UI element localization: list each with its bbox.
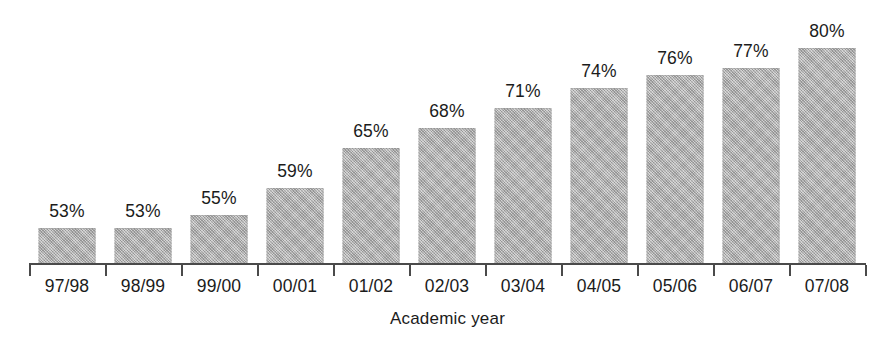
bar (495, 108, 552, 265)
bar-slot: 55% (181, 0, 257, 265)
bar (723, 68, 780, 265)
x-axis-tick-label: 04/05 (561, 278, 637, 296)
bar-slot: 65% (333, 0, 409, 265)
bar-value-label: 80% (809, 23, 845, 41)
bar (647, 75, 704, 265)
x-axis-tick-label: 01/02 (333, 278, 409, 296)
x-axis-tick (789, 265, 791, 276)
x-axis-tick (181, 265, 183, 276)
x-axis-tick (29, 265, 31, 276)
x-axis-tick (333, 265, 335, 276)
bar-value-label: 76% (657, 50, 693, 68)
bar-slot: 80% (789, 0, 865, 265)
bar-slot: 71% (485, 0, 561, 265)
bar-value-label: 77% (733, 43, 769, 61)
x-axis-tick (409, 265, 411, 276)
x-axis-title: Academic year (0, 310, 895, 327)
bar-slot: 68% (409, 0, 485, 265)
bar-value-label: 59% (277, 163, 313, 181)
bar-slot: 53% (29, 0, 105, 265)
bar-value-label: 65% (353, 123, 389, 141)
bar (267, 188, 324, 265)
bar-value-label: 68% (429, 103, 465, 121)
x-axis-tick (485, 265, 487, 276)
bar-slot: 77% (713, 0, 789, 265)
x-axis-tick-label: 02/03 (409, 278, 485, 296)
bar-slot: 76% (637, 0, 713, 265)
x-axis-tick (257, 265, 259, 276)
bar (39, 228, 96, 265)
x-axis-tick-label: 00/01 (257, 278, 333, 296)
bar-slot: 53% (105, 0, 181, 265)
x-axis-tick (105, 265, 107, 276)
x-axis-tick-label: 07/08 (789, 278, 865, 296)
x-axis-tick-label: 06/07 (713, 278, 789, 296)
bar-value-label: 53% (125, 203, 161, 221)
bar (799, 48, 856, 265)
x-axis-line (29, 263, 866, 265)
plot-area: 53%53%55%59%65%68%71%74%76%77%80% (29, 0, 866, 265)
bars-layer: 53%53%55%59%65%68%71%74%76%77%80% (29, 0, 866, 265)
bar-slot: 59% (257, 0, 333, 265)
x-axis-tick (637, 265, 639, 276)
bar-value-label: 53% (49, 203, 85, 221)
bar-slot: 74% (561, 0, 637, 265)
bar-value-label: 71% (505, 83, 541, 101)
x-axis-tick-label: 98/99 (105, 278, 181, 296)
x-axis-tick (561, 265, 563, 276)
x-axis-tick (713, 265, 715, 276)
bar-chart: 53%53%55%59%65%68%71%74%76%77%80% 97/989… (0, 0, 895, 347)
bar (343, 148, 400, 265)
bar (419, 128, 476, 265)
x-axis-tick (865, 265, 867, 276)
bar-value-label: 55% (201, 190, 237, 208)
bar (191, 215, 248, 265)
x-axis-tick-label: 97/98 (29, 278, 105, 296)
bar-value-label: 74% (581, 63, 617, 81)
x-axis-tick-label: 03/04 (485, 278, 561, 296)
bar (571, 88, 628, 265)
x-axis-tick-label: 99/00 (181, 278, 257, 296)
bar (115, 228, 172, 265)
x-axis-tick-label: 05/06 (637, 278, 713, 296)
